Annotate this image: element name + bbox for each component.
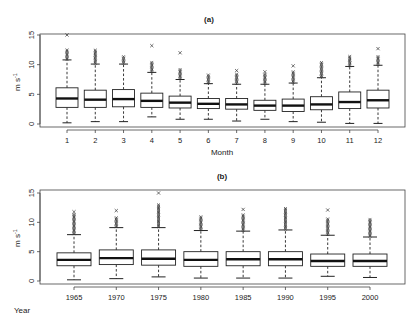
box-1990 bbox=[268, 207, 302, 278]
x-tick-label: 1980 bbox=[193, 293, 210, 302]
panel-a: (a) 051015 123456789101112 Month m s-1 bbox=[12, 15, 405, 157]
box-12 bbox=[367, 47, 389, 123]
y-tick-label: 15 bbox=[27, 189, 36, 197]
boxplot-figure: (a) 051015 123456789101112 Month m s-1 (… bbox=[0, 0, 419, 323]
panel-a-frame bbox=[40, 34, 405, 127]
x-tick-label: 3 bbox=[121, 136, 125, 145]
x-tick-label: 1995 bbox=[319, 293, 336, 302]
box-3 bbox=[113, 55, 135, 121]
box-2 bbox=[84, 49, 106, 122]
x-tick-label: 1985 bbox=[235, 293, 252, 302]
y-tick-label: 0 bbox=[27, 279, 36, 283]
panel-a-title: (a) bbox=[204, 15, 214, 24]
panel-b-frame bbox=[40, 190, 405, 284]
panel-b-x-label: Year bbox=[14, 306, 31, 315]
panel-a-x-label: Month bbox=[211, 148, 233, 157]
box-11 bbox=[339, 55, 361, 123]
x-tick-label: 2000 bbox=[362, 293, 379, 302]
box-6 bbox=[197, 74, 219, 120]
box-9 bbox=[282, 64, 304, 121]
panel-a-y-axis: 051015 bbox=[27, 31, 40, 126]
box-1965 bbox=[57, 210, 91, 280]
x-tick-label: 11 bbox=[346, 136, 354, 145]
x-tick-label: 1975 bbox=[150, 293, 167, 302]
box-8 bbox=[254, 70, 276, 119]
box-1970 bbox=[99, 209, 133, 279]
box-10 bbox=[310, 61, 332, 122]
panel-b-boxes bbox=[57, 191, 387, 279]
y-tick-label: 10 bbox=[27, 60, 36, 68]
panel-b-y-axis: 051015 bbox=[27, 189, 40, 283]
panel-b-x-axis: 19651970197519801985199019952000 bbox=[66, 287, 379, 302]
box-7 bbox=[226, 69, 248, 121]
x-tick-label: 1965 bbox=[66, 293, 83, 302]
box-2000 bbox=[353, 218, 387, 278]
y-tick-label: 0 bbox=[27, 122, 36, 126]
box-1985 bbox=[226, 208, 260, 278]
box-5 bbox=[169, 51, 191, 119]
y-tick-label: 5 bbox=[27, 250, 36, 254]
x-tick-label: 1 bbox=[65, 136, 69, 145]
x-tick-label: 7 bbox=[235, 136, 239, 145]
y-tick-label: 15 bbox=[27, 31, 36, 39]
panel-a-boxes bbox=[56, 33, 389, 123]
x-tick-label: 1970 bbox=[108, 293, 125, 302]
x-tick-label: 8 bbox=[263, 136, 267, 145]
x-tick-label: 5 bbox=[178, 136, 182, 145]
panel-a-x-axis: 123456789101112 bbox=[65, 130, 382, 145]
x-tick-label: 4 bbox=[150, 136, 154, 145]
x-tick-label: 10 bbox=[317, 136, 325, 145]
x-tick-label: 9 bbox=[291, 136, 295, 145]
y-tick-label: 10 bbox=[27, 218, 36, 226]
x-tick-label: 6 bbox=[206, 136, 210, 145]
box-1995 bbox=[311, 208, 345, 276]
x-tick-label: 1990 bbox=[277, 293, 294, 302]
x-tick-label: 2 bbox=[93, 136, 97, 145]
panel-a-y-label: m s-1 bbox=[12, 73, 22, 91]
panel-b: (b) 051015 19651970197519801985199019952… bbox=[12, 172, 405, 315]
box-4 bbox=[141, 44, 163, 117]
box-1 bbox=[56, 33, 78, 122]
panel-b-y-label: m s-1 bbox=[12, 229, 22, 247]
box-1980 bbox=[184, 215, 218, 278]
panel-b-title: (b) bbox=[217, 172, 228, 181]
y-tick-label: 5 bbox=[27, 92, 36, 96]
x-tick-label: 12 bbox=[374, 136, 382, 145]
box-1975 bbox=[142, 191, 176, 276]
